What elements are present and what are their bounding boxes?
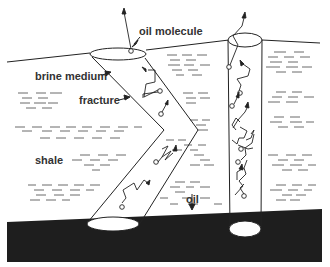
surface-line (7, 53, 90, 62)
well-top-opening (228, 33, 262, 47)
oil-label: oil (186, 193, 199, 205)
surface-line-right (262, 40, 320, 43)
fracture-molecule-paths (120, 8, 177, 209)
fracture-top-opening (90, 48, 146, 60)
oil-molecule-icon (129, 49, 134, 54)
fracture-bottom-opening (87, 217, 139, 231)
oil-molecule-label: oil molecule (139, 25, 203, 37)
brine-medium-label: brine medium (35, 70, 107, 82)
fracture-label: fracture (79, 94, 120, 106)
oil-reservoir-layer (7, 209, 322, 262)
well-bottom-opening (229, 221, 261, 237)
oil-migration-diagram: oil molecule brine medium fracture shale… (0, 0, 330, 267)
shale-label: shale (35, 154, 63, 166)
surface-line-mid (146, 40, 229, 50)
